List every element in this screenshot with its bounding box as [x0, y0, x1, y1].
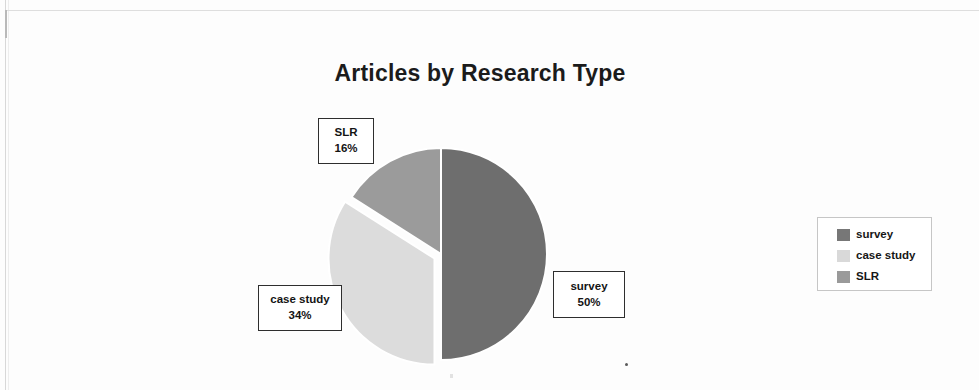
data-label-case-study-percent: 34%: [266, 307, 334, 323]
legend-swatch-slr-icon: [837, 271, 850, 283]
chart-title: Articles by Research Type: [180, 60, 780, 87]
scan-line-vertical: [5, 0, 6, 390]
pie-slice-survey[interactable]: [441, 148, 547, 360]
legend-label-slr: SLR: [856, 271, 879, 283]
data-label-slr-percent: 16%: [326, 140, 366, 156]
data-label-slr-name: SLR: [335, 126, 358, 138]
scan-speck: [625, 363, 628, 366]
legend-swatch-case-study-icon: [837, 250, 850, 262]
scan-speck-faint: [450, 374, 453, 378]
pie-chart-svg: [325, 138, 565, 373]
scan-line-vertical-faint: [8, 0, 9, 390]
scan-corner-mark: [5, 10, 7, 38]
scanned-chart-page: Articles by Research Type SLR 16% case s…: [0, 0, 979, 390]
data-label-slr: SLR 16%: [318, 118, 374, 164]
legend-item-case-study[interactable]: case study: [837, 245, 931, 266]
data-label-survey-percent: 50%: [561, 294, 617, 310]
data-label-case-study: case study 34%: [258, 285, 342, 331]
legend-swatch-survey-icon: [837, 229, 850, 241]
chart-legend: survey case study SLR: [817, 217, 932, 291]
legend-item-survey[interactable]: survey: [837, 224, 931, 245]
legend-item-slr[interactable]: SLR: [837, 266, 931, 287]
scan-line-horizontal: [6, 10, 979, 11]
legend-label-survey: survey: [856, 229, 893, 241]
pie-chart: [325, 138, 565, 373]
data-label-case-study-name: case study: [270, 293, 329, 305]
data-label-survey: survey 50%: [553, 271, 625, 318]
legend-label-case-study: case study: [856, 250, 915, 262]
data-label-survey-name: survey: [570, 280, 607, 292]
